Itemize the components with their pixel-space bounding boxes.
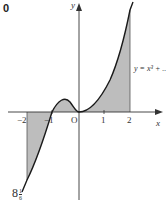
x-axis-arrow-icon <box>155 109 163 115</box>
curve-equation-label: y = x³ + ... <box>134 64 166 73</box>
tick-label-neg2: −2 <box>17 115 27 125</box>
answer-value: 816 <box>12 186 22 201</box>
tick-label-neg1: −1 <box>44 115 54 125</box>
tick-label-2: 2 <box>127 115 132 125</box>
answer-whole: 8 <box>12 186 18 200</box>
question-number: 0 <box>3 2 9 14</box>
shaded-region-right <box>79 10 130 112</box>
y-axis-arrow-icon <box>76 3 82 11</box>
answer-fraction: 16 <box>19 188 22 201</box>
origin-label: O <box>71 115 78 125</box>
x-axis-label: x <box>156 118 160 128</box>
answer-numerator: 1 <box>19 188 22 195</box>
cubic-graph-figure: 0 y x O −2 −1 1 2 y = x³ + ... 816 <box>0 0 166 202</box>
tick-label-1: 1 <box>101 115 106 125</box>
answer-denominator: 6 <box>19 195 22 201</box>
graph-svg <box>0 0 166 202</box>
y-axis-label: y <box>71 0 75 10</box>
